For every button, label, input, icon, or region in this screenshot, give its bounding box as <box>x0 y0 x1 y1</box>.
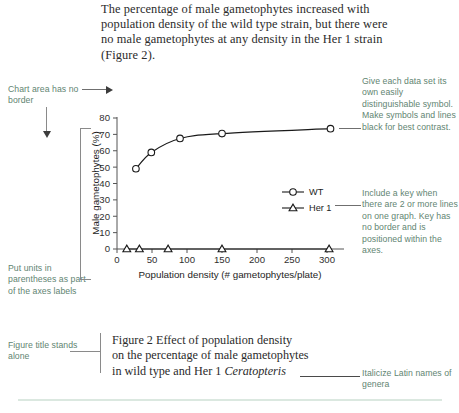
x-tick-label: 250 <box>284 254 300 265</box>
data-point-circle <box>327 125 334 132</box>
bottom-divider <box>18 399 442 401</box>
intro-paragraph: The percentage of male gametophytes incr… <box>101 2 391 63</box>
arrow-down-icon <box>43 131 51 138</box>
x-tick-label: 50 <box>147 254 158 265</box>
arrow-right-icon <box>106 86 113 94</box>
chart: 01020304050607080 050100150200250300 Mal… <box>88 108 360 283</box>
chart-series-layer <box>123 125 334 251</box>
data-point-circle <box>148 149 155 156</box>
caption-line-1: Figure 2 Effect of population density <box>112 333 382 348</box>
annotation-chart-border: Chart area has no border <box>8 84 94 107</box>
connector-chart-border-vertical <box>46 107 47 133</box>
x-tick-label: 300 <box>319 254 335 265</box>
figure-caption: Figure 2 Effect of population density on… <box>112 333 382 379</box>
data-point-circle <box>177 135 184 142</box>
data-point-circle <box>219 130 226 137</box>
data-point-circle <box>133 165 140 172</box>
annotation-symbols: Give each data set its own easily distin… <box>362 76 458 133</box>
y-axis-title: Male gametophytes (%) <box>90 131 101 234</box>
caption-line-3-text: in wild type and Her 1 <box>112 364 224 378</box>
x-tick-label: 200 <box>249 254 265 265</box>
y-tick-label: 0 <box>105 243 110 254</box>
figure-page: The percentage of male gametophytes incr… <box>0 0 459 413</box>
x-axis-title: Population density (# gametophytes/plate… <box>139 269 322 280</box>
legend-label: Her 1 <box>309 203 331 213</box>
chart-legend: WTHer 1 <box>282 187 331 213</box>
bracket-caption-vertical <box>100 333 101 373</box>
connector-title-alone <box>70 351 100 352</box>
annotation-units: Put units in parentheses as part of the … <box>8 263 90 297</box>
data-point-circle <box>290 189 297 196</box>
series-line-wt <box>136 129 331 169</box>
connector-chart-border-horizontal <box>82 89 108 90</box>
caption-line-2: on the percentage of male gametophytes <box>112 348 382 363</box>
annotation-key: Include a key when there are 2 or more l… <box>362 188 458 256</box>
y-tick-label: 80 <box>99 112 110 123</box>
x-tick-label: 100 <box>179 254 195 265</box>
chart-axes <box>117 117 344 249</box>
y-axis-ticks: 01020304050607080 <box>99 112 117 254</box>
legend-label: WT <box>309 187 324 197</box>
chart-svg: 01020304050607080 050100150200250300 Mal… <box>88 108 360 283</box>
x-tick-label: 150 <box>214 254 230 265</box>
x-tick-label: 0 <box>114 254 119 265</box>
caption-genus-italic: Ceratopteris <box>224 364 286 378</box>
caption-line-3: in wild type and Her 1 Ceratopteris <box>112 364 382 379</box>
